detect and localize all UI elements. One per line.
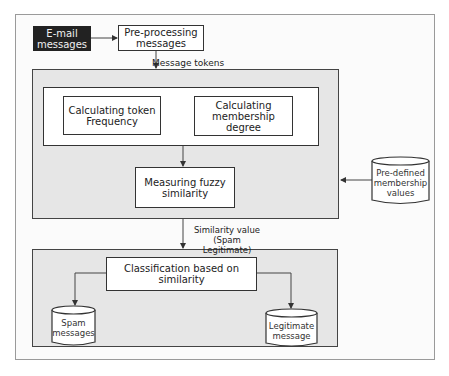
membership-degree-line3: degree (226, 122, 261, 133)
fuzzy-similarity-line2: similarity (162, 188, 208, 199)
legitimate-message-node: Legitimate message (266, 318, 317, 344)
email-line1: E-mail (46, 28, 77, 39)
spam-line1: Spam (61, 318, 85, 328)
classification-line2: similarity (158, 274, 204, 285)
similarity-line2: (Spam Legitimate) (190, 235, 264, 255)
classification-line1: Classification based on (124, 263, 239, 274)
membership-degree-line2: membership (212, 111, 275, 122)
fuzzy-similarity-node: Measuring fuzzy similarity (135, 167, 235, 208)
preprocessing-line1: Pre-processing (124, 27, 197, 38)
similarity-line1: Similarity value (190, 225, 264, 235)
fuzzy-similarity-line1: Measuring fuzzy (144, 177, 225, 188)
predefined-values-node: Pre-defined membership values (372, 165, 429, 201)
legitimate-line2: message (272, 331, 310, 341)
predefined-line1: Pre-defined (376, 168, 425, 178)
message-tokens-label: Message tokens (152, 58, 224, 68)
spam-line2: messages (52, 328, 95, 338)
similarity-value-label: Similarity value (Spam Legitimate) (190, 225, 264, 255)
preprocessing-node: Pre-processing messages (118, 25, 204, 51)
membership-degree-node: Calculating membership degree (194, 96, 293, 136)
email-line2: messages (37, 39, 87, 50)
membership-degree-line1: Calculating (215, 100, 271, 111)
token-frequency-node: Calculating token Frequency (63, 96, 161, 135)
token-frequency-line1: Calculating token (68, 105, 155, 116)
spam-messages-node: Spam messages (52, 315, 95, 341)
predefined-line2: membership (374, 178, 427, 188)
preprocessing-line2: messages (136, 38, 186, 49)
token-frequency-line2: Frequency (86, 116, 138, 127)
legitimate-line1: Legitimate (269, 321, 314, 331)
predefined-line3: values (387, 188, 415, 198)
classification-node: Classification based on similarity (106, 257, 257, 291)
email-messages-node: E-mail messages (33, 26, 91, 51)
